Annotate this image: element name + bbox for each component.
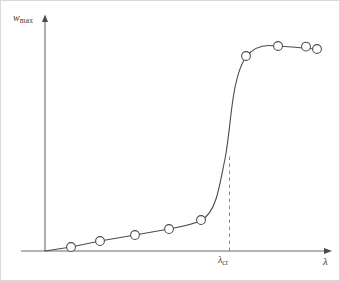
data-point-marker [274,42,283,51]
data-point-marker [242,52,251,61]
response-curve [45,46,314,252]
data-point-marker [67,243,76,252]
data-point-marker [165,225,174,234]
data-point-marker [197,216,206,225]
figure-container: wmax λ λcr [0,0,340,281]
critical-load-label: λcr [218,254,229,267]
data-point-marker [96,237,105,246]
data-point-marker [313,45,322,54]
y-axis-arrow [42,15,48,23]
data-point-marker [302,42,311,51]
critical-load-label-subscript: cr [222,258,228,267]
post-buckling-chart [1,1,340,281]
y-axis-label: wmax [13,12,33,25]
x-axis-label: λ [323,255,328,267]
data-point-marker [131,231,140,240]
y-axis-label-subscript: max [20,16,34,25]
y-axis-label-main: w [13,12,20,23]
x-axis-arrow [324,248,332,254]
